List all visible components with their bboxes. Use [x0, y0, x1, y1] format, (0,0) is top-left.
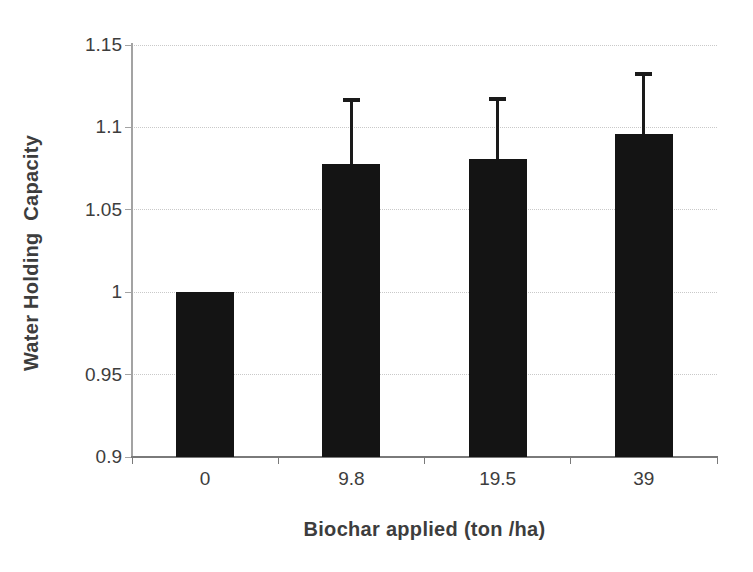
error-bar-stem	[350, 99, 353, 163]
bar-chart-figure: Water Holding Capacity 0.90.9511.051.11.…	[0, 0, 753, 572]
y-tick-label: 0.95	[52, 363, 122, 387]
x-axis-tick	[424, 458, 425, 464]
x-tick-label: 19.5	[438, 467, 558, 491]
y-axis-title: Water Holding Capacity	[20, 135, 43, 371]
x-axis-title: Biochar applied (ton /ha)	[132, 518, 717, 541]
error-bar-cap	[489, 97, 506, 101]
x-axis-tick	[717, 458, 718, 464]
y-tick-label: 0.9	[52, 445, 122, 469]
x-axis-tick	[278, 458, 279, 464]
bar	[176, 292, 234, 457]
gridline	[132, 45, 717, 46]
bar	[615, 134, 673, 457]
error-bar-cap	[635, 72, 652, 76]
y-tick-label: 1.05	[52, 198, 122, 222]
x-tick-label: 0	[145, 467, 265, 491]
y-tick-label: 1	[52, 280, 122, 304]
y-axis-line	[131, 43, 133, 458]
y-tick-label: 1.15	[52, 33, 122, 57]
x-axis-tick	[132, 458, 133, 464]
bar	[469, 159, 527, 457]
error-bar-stem	[642, 73, 645, 134]
y-tick-label: 1.1	[52, 115, 122, 139]
bar	[322, 164, 380, 457]
x-tick-label: 39	[584, 467, 704, 491]
gridline	[132, 127, 717, 128]
error-bar-stem	[496, 98, 499, 159]
error-bar-cap	[343, 98, 360, 102]
x-axis-tick	[570, 458, 571, 464]
x-tick-label: 9.8	[291, 467, 411, 491]
